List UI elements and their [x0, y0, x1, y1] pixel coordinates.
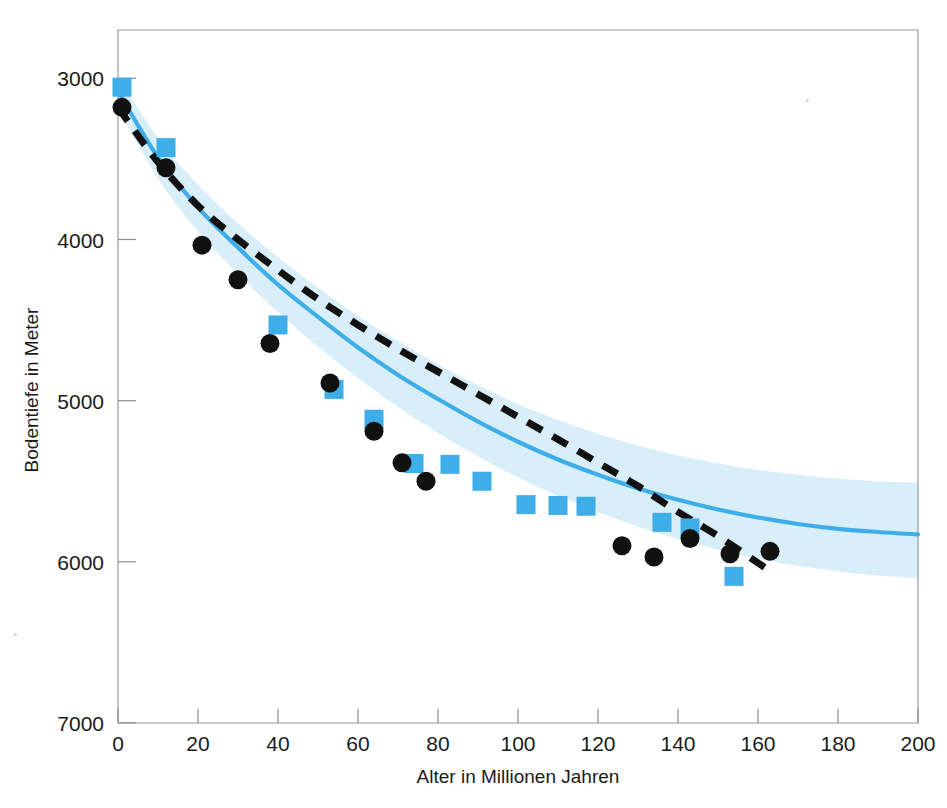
x-tick-label-80: 80 [426, 732, 449, 755]
circle-marker-10 [645, 548, 664, 567]
square-marker-10 [577, 497, 596, 516]
square-marker-2 [269, 315, 288, 334]
y-axis-ticks [118, 78, 136, 723]
x-tick-label-60: 60 [346, 732, 369, 755]
x-tick-label-200: 200 [900, 732, 935, 755]
scan-speck-top-right [806, 99, 809, 102]
scan-speck-left [14, 633, 17, 636]
square-marker-0 [113, 78, 132, 97]
y-tick-label-6000: 6000 [57, 551, 104, 574]
x-tick-label-140: 140 [660, 732, 695, 755]
circle-marker-2 [193, 236, 212, 255]
x-tick-label-20: 20 [186, 732, 209, 755]
circle-marker-7 [393, 453, 412, 472]
x-tick-label-160: 160 [740, 732, 775, 755]
square-marker-6 [441, 455, 460, 474]
y-axis-tick-labels: 30004000500060007000 [57, 67, 104, 735]
y-tick-label-4000: 4000 [57, 229, 104, 252]
seafloor-depth-vs-age-chart: 020406080100120140160180200 300040005000… [0, 0, 947, 808]
circle-marker-4 [261, 334, 280, 353]
square-marker-11 [653, 513, 672, 532]
y-axis-title: Bodentiefe in Meter [21, 307, 42, 472]
x-axis-tick-labels: 020406080100120140160180200 [112, 732, 935, 755]
square-marker-7 [473, 472, 492, 491]
x-tick-label-180: 180 [820, 732, 855, 755]
circle-marker-12 [721, 544, 740, 563]
y-tick-label-3000: 3000 [57, 67, 104, 90]
y-tick-label-5000: 5000 [57, 390, 104, 413]
square-marker-9 [549, 496, 568, 515]
circle-marker-5 [321, 373, 340, 392]
circle-marker-8 [417, 472, 436, 491]
x-tick-label-0: 0 [112, 732, 124, 755]
chart-page: 020406080100120140160180200 300040005000… [0, 0, 947, 808]
square-marker-8 [517, 495, 536, 514]
square-marker-13 [725, 567, 744, 586]
x-tick-label-120: 120 [580, 732, 615, 755]
x-tick-label-40: 40 [266, 732, 289, 755]
square-marker-1 [157, 138, 176, 157]
circle-marker-11 [681, 529, 700, 548]
circle-marker-0 [113, 98, 132, 117]
x-axis-title: Alter in Millionen Jahren [417, 766, 620, 787]
y-tick-label-7000: 7000 [57, 712, 104, 735]
circle-marker-6 [365, 422, 384, 441]
plot-frame [118, 30, 918, 723]
x-axis-ticks [118, 709, 918, 723]
x-tick-label-100: 100 [500, 732, 535, 755]
circle-marker-3 [229, 270, 248, 289]
circle-marker-9 [613, 536, 632, 555]
circle-marker-13 [761, 542, 780, 561]
circle-marker-1 [157, 158, 176, 177]
